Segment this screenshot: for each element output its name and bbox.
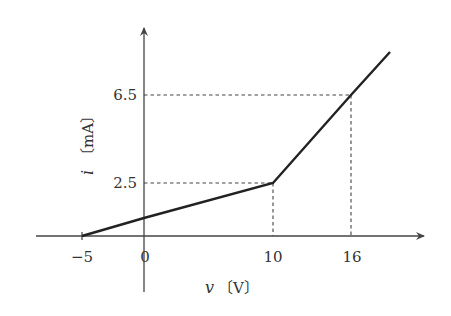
y-axis-unit: 〔mA〕 [79, 108, 97, 163]
x-axis-unit: 〔V〕 [218, 279, 259, 297]
y-axis-variable: i [78, 170, 97, 175]
iv-chart: −5 0 10 16 2.5 6.5 v 〔V〕 i 〔mA〕 [0, 0, 451, 316]
x-tick-label-16: 16 [342, 248, 361, 266]
x-tick-label-minus5: −5 [71, 248, 93, 266]
iv-curve [82, 52, 390, 236]
y-tick-label-2-5: 2.5 [113, 174, 137, 192]
x-axis-variable: v [205, 278, 214, 297]
reference-lines [144, 95, 351, 236]
x-tick-label-10: 10 [263, 248, 282, 266]
y-tick-label-6-5: 6.5 [113, 86, 137, 104]
x-tick-label-0: 0 [140, 248, 150, 266]
